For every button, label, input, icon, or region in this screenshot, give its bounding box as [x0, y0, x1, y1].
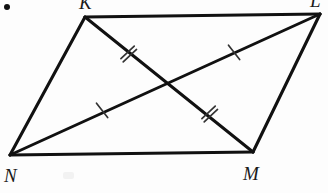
- edge-kl: [85, 14, 320, 17]
- geometry-figure: K L M N: [0, 0, 328, 193]
- vertex-label-k: K: [79, 0, 92, 12]
- edge-lm: [253, 14, 320, 152]
- diagonal-nl: [10, 14, 320, 155]
- vertex-label-n: N: [4, 166, 17, 185]
- parallelogram-klmn-drawing: [0, 0, 328, 193]
- vertex-label-l: L: [310, 0, 321, 10]
- vertex-label-m: M: [243, 164, 259, 183]
- edge-mn: [10, 152, 253, 155]
- edge-nk: [10, 17, 85, 155]
- tick-km-lower-group: [200, 106, 218, 122]
- diagonal-km: [85, 17, 253, 152]
- diagonals: [10, 14, 320, 155]
